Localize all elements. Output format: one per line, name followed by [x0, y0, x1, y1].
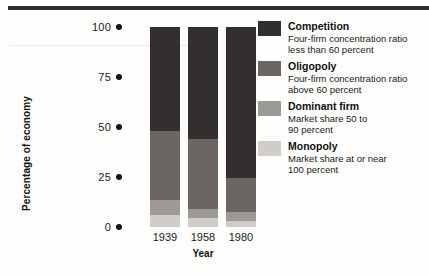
legend-swatch-monopoly — [258, 141, 281, 156]
bar-segment-monopoly-1980[interactable] — [226, 221, 256, 227]
legend-desc-competition-line1: Four-firm concentration ratio — [288, 33, 407, 44]
y-tick-0: 0 — [62, 220, 122, 234]
legend-label-monopoly: Monopoly — [288, 140, 426, 152]
legend-desc-monopoly: Market share at or near 100 percent — [288, 153, 426, 175]
y-tick-75: 75 — [62, 70, 122, 84]
y-tick-50: 50 — [62, 120, 122, 134]
legend-item-monopoly[interactable]: Monopoly Market share at or near 100 per… — [258, 140, 426, 175]
y-tick-label-75: 75 — [98, 71, 111, 83]
bar-segment-oligopoly-1958[interactable] — [188, 139, 218, 209]
legend-desc-dominant-firm-line2: 90 percent — [288, 124, 333, 135]
chart-page: 100 75 50 25 0 Percentage of economy 193… — [0, 0, 429, 276]
legend-desc-competition-line2: less than 60 percent — [288, 44, 374, 55]
bar-1939[interactable] — [150, 27, 180, 227]
bar-segment-dominant-firm-1980[interactable] — [226, 212, 256, 221]
legend-item-oligopoly[interactable]: Oligopoly Four-firm concentration ratio … — [258, 60, 426, 95]
legend-item-dominant-firm[interactable]: Dominant firm Market share 50 to 90 perc… — [258, 100, 426, 135]
x-tick-label-1980: 1980 — [218, 231, 264, 243]
bar-1958[interactable] — [188, 27, 218, 227]
y-tick-100: 100 — [62, 20, 122, 34]
bar-segment-dominant-firm-1939[interactable] — [150, 200, 180, 215]
y-axis-title: Percentage of economy — [21, 79, 32, 229]
y-tick-dot-25 — [116, 174, 122, 180]
y-tick-dot-100 — [116, 24, 122, 30]
chart-legend: Competition Four-firm concentration rati… — [258, 20, 426, 180]
bar-segment-dominant-firm-1958[interactable] — [188, 209, 218, 218]
y-tick-25: 25 — [62, 170, 122, 184]
y-tick-label-100: 100 — [92, 21, 111, 33]
legend-desc-monopoly-line2: 100 percent — [288, 164, 338, 175]
legend-label-competition: Competition — [288, 20, 426, 32]
bar-segment-competition-1939[interactable] — [150, 27, 180, 131]
legend-label-oligopoly: Oligopoly — [288, 60, 426, 72]
legend-swatch-competition — [258, 21, 281, 36]
legend-item-competition[interactable]: Competition Four-firm concentration rati… — [258, 20, 426, 55]
y-tick-label-25: 25 — [98, 171, 111, 183]
y-tick-dot-50 — [116, 124, 122, 130]
bar-segment-monopoly-1958[interactable] — [188, 218, 218, 227]
bar-segment-oligopoly-1980[interactable] — [226, 178, 256, 212]
bar-1980[interactable] — [226, 27, 256, 227]
legend-desc-competition: Four-firm concentration ratio less than … — [288, 33, 426, 55]
legend-desc-oligopoly-line1: Four-firm concentration ratio — [288, 73, 407, 84]
y-tick-dot-0 — [116, 224, 122, 230]
x-axis-title: Year — [163, 248, 243, 259]
y-tick-label-50: 50 — [98, 121, 111, 133]
legend-desc-dominant-firm-line1: Market share 50 to — [288, 113, 367, 124]
bar-segment-competition-1980[interactable] — [226, 27, 256, 178]
legend-label-dominant-firm: Dominant firm — [288, 100, 426, 112]
legend-desc-oligopoly-line2: above 60 percent — [288, 84, 361, 95]
legend-swatch-oligopoly — [258, 61, 281, 76]
legend-desc-oligopoly: Four-firm concentration ratio above 60 p… — [288, 73, 426, 95]
bar-segment-competition-1958[interactable] — [188, 27, 218, 139]
bar-segment-monopoly-1939[interactable] — [150, 215, 180, 227]
y-tick-dot-75 — [116, 74, 122, 80]
legend-desc-dominant-firm: Market share 50 to 90 percent — [288, 113, 426, 135]
y-tick-label-0: 0 — [105, 221, 111, 233]
legend-desc-monopoly-line1: Market share at or near — [288, 153, 387, 164]
bar-segment-oligopoly-1939[interactable] — [150, 131, 180, 200]
legend-swatch-dominant-firm — [258, 101, 281, 116]
